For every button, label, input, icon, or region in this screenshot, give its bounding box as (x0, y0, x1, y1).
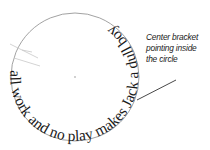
annotation-line-3: the circle (146, 54, 210, 65)
annotation-callout: Center bracket pointing inside the circl… (146, 32, 210, 65)
annotation-leader-line (137, 80, 176, 100)
circle-path-text[interactable]: all work and no play makes Jack a dull b… (7, 22, 141, 144)
text-on-circle-diagram: all work and no play makes Jack a dull b… (0, 0, 210, 150)
circle-path-text-content: all work and no play makes Jack a dull b… (7, 22, 141, 144)
annotation-line-1: Center bracket (146, 32, 210, 43)
center-point (74, 76, 76, 78)
annotation-line-2: pointing inside (146, 43, 210, 54)
